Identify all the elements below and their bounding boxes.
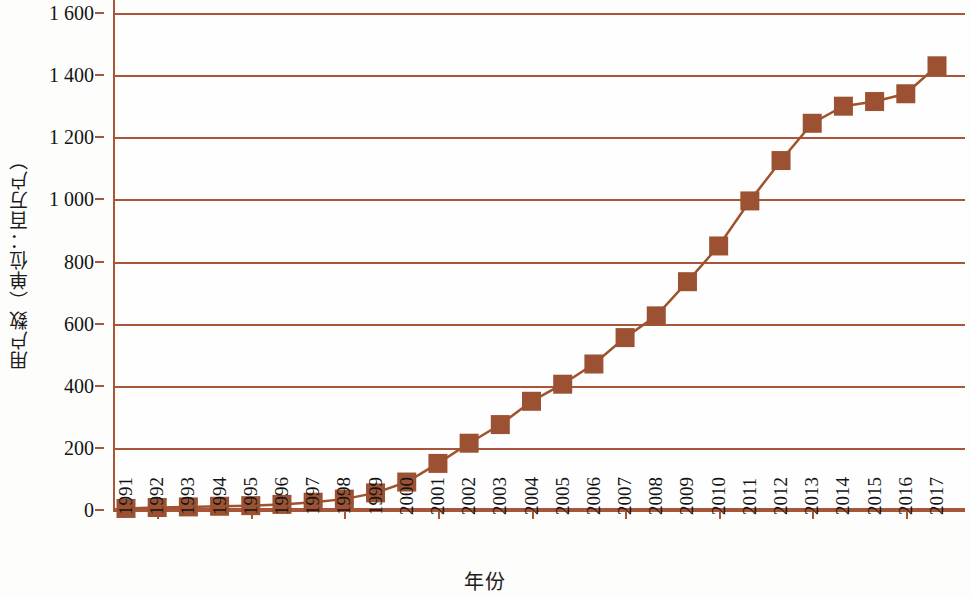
y-axis-title: 用户数（单位：百万户） [0, 0, 38, 520]
data-point-marker [522, 392, 541, 411]
y-tick-label: 600 [64, 312, 94, 335]
data-point-marker [740, 191, 759, 210]
x-tick-label: 2006 [583, 477, 605, 515]
data-point-marker [460, 434, 479, 453]
x-tick-label: 2007 [614, 477, 636, 515]
x-tick-label: 1993 [177, 477, 199, 515]
x-tick-label: 1995 [240, 477, 262, 515]
y-tick-label: 800 [64, 250, 94, 273]
data-point-marker [553, 375, 572, 394]
y-tick-mark [95, 74, 104, 76]
x-tick-label: 2011 [739, 478, 761, 515]
x-tick-label: 2000 [396, 477, 418, 515]
y-tick-mark [95, 509, 104, 511]
data-point-marker [896, 84, 915, 103]
y-tick-label: 1 000 [49, 188, 94, 211]
x-tick-label: 2013 [801, 477, 823, 515]
data-point-marker [834, 97, 853, 116]
data-point-marker [772, 151, 791, 170]
x-tick-label: 2004 [521, 477, 543, 515]
data-point-marker [584, 355, 603, 374]
y-tick-mark [95, 136, 104, 138]
data-point-marker [709, 236, 728, 255]
x-tick-label: 2010 [708, 477, 730, 515]
x-tick-label: 1997 [302, 477, 324, 515]
x-tick-label: 2008 [645, 477, 667, 515]
x-tick-label: 1994 [209, 477, 231, 515]
x-tick-label: 2012 [770, 477, 792, 515]
x-tick-label: 2002 [458, 477, 480, 515]
y-tick-mark [95, 261, 104, 263]
x-tick-label: 2009 [676, 477, 698, 515]
x-tick-label: 2015 [864, 477, 886, 515]
data-point-marker [928, 56, 947, 75]
plot-area [113, 13, 965, 510]
x-axis-title: 年份 [0, 566, 970, 595]
y-tick-mark [95, 447, 104, 449]
x-tick-label: 2005 [552, 477, 574, 515]
x-tick-label: 1999 [365, 477, 387, 515]
chart-figure: 用户数（单位：百万户） 1 6001 4001 2001 00080060040… [0, 0, 970, 598]
y-axis-title-text: 用户数（单位：百万户） [6, 150, 33, 370]
x-tick-label: 2016 [895, 477, 917, 515]
data-point-marker [803, 114, 822, 133]
x-tick-label: 1998 [333, 477, 355, 515]
y-tick-label: 1 600 [49, 2, 94, 25]
y-tick-label: 1 200 [49, 126, 94, 149]
data-point-marker [865, 92, 884, 111]
y-tick-mark [95, 385, 104, 387]
x-tick-label: 2014 [832, 477, 854, 515]
data-point-marker [616, 328, 635, 347]
y-tick-label: 0 [84, 499, 94, 522]
x-tick-label: 2003 [489, 477, 511, 515]
y-tick-mark [95, 323, 104, 325]
data-series [113, 13, 965, 510]
data-point-marker [428, 454, 447, 473]
x-tick-label: 1992 [146, 477, 168, 515]
y-axis-tick-labels: 1 6001 4001 2001 0008006004002000 [38, 0, 104, 520]
y-tick-label: 400 [64, 374, 94, 397]
y-tick-label: 200 [64, 436, 94, 459]
x-tick-label: 2001 [427, 477, 449, 515]
data-point-marker [678, 272, 697, 291]
y-tick-mark [95, 198, 104, 200]
y-tick-label: 1 400 [49, 64, 94, 87]
x-tick-label: 2017 [926, 477, 948, 515]
x-tick-label: 1996 [271, 477, 293, 515]
data-point-marker [647, 306, 666, 325]
x-tick-label: 1991 [115, 477, 137, 515]
y-tick-mark [95, 12, 104, 14]
data-point-marker [491, 415, 510, 434]
